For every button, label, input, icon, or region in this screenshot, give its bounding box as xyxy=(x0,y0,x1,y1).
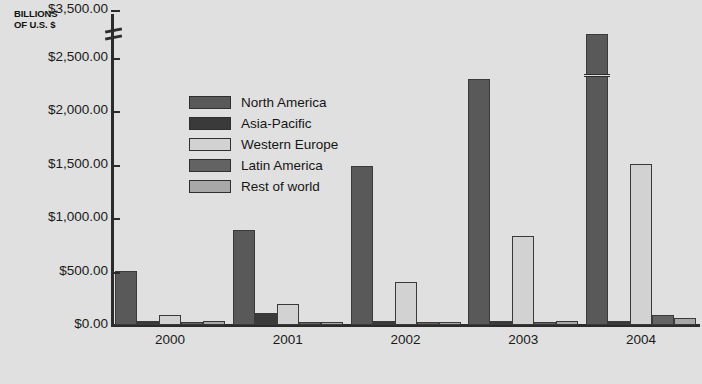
y-axis-labels: $0.00$500.00$1,000.00$1,500.00$2,000.00$… xyxy=(0,0,108,384)
y-axis-tick-label: $2,500.00 xyxy=(4,49,108,64)
bar-latin-america-2000 xyxy=(181,322,203,325)
bar-western-europe-2002 xyxy=(395,282,417,325)
bar-asia-pacific-2002 xyxy=(373,321,395,325)
bar-asia-pacific-2003 xyxy=(490,321,512,325)
y-axis-tick-label: $0.00 xyxy=(4,316,108,331)
y-axis-tick-label: $500.00 xyxy=(4,263,108,278)
bar-western-europe-2004 xyxy=(630,164,652,325)
bar-rest-of-world-2003 xyxy=(556,321,578,325)
bar-latin-america-2003 xyxy=(534,322,556,325)
bar-western-europe-2003 xyxy=(512,236,534,325)
y-axis-tick-label: $1,000.00 xyxy=(4,209,108,224)
bar-latin-america-2004 xyxy=(652,315,674,325)
bar-axis-break-mark xyxy=(584,74,610,77)
x-axis-tick-label: 2000 xyxy=(111,332,229,347)
bar-rest-of-world-2004 xyxy=(674,318,696,325)
bar-rest-of-world-2001 xyxy=(321,322,343,325)
y-axis-tick-mark xyxy=(111,325,120,327)
bar-asia-pacific-2000 xyxy=(137,321,159,325)
bar-north-america-2002 xyxy=(351,166,373,325)
y-axis-tick-label: $2,000.00 xyxy=(4,102,108,117)
bar-asia-pacific-2001 xyxy=(255,313,277,325)
plot-area xyxy=(111,14,700,325)
x-axis-tick-label: 2002 xyxy=(347,332,465,347)
y-axis-tick-label: $1,500.00 xyxy=(4,156,108,171)
y-axis-tick-mark xyxy=(111,165,120,167)
y-axis-tick-mark xyxy=(111,272,120,274)
bar-western-europe-2000 xyxy=(159,315,181,325)
bar-latin-america-2001 xyxy=(299,322,321,325)
bar-north-america-2000 xyxy=(115,271,137,325)
y-axis-tick-mark xyxy=(111,10,120,12)
bar-asia-pacific-2004 xyxy=(608,321,630,325)
bar-rest-of-world-2002 xyxy=(439,322,461,325)
bar-western-europe-2001 xyxy=(277,304,299,325)
bar-chart: BILLIONS OF U.S. $ $0.00$500.00$1,000.00… xyxy=(0,0,702,384)
y-axis-tick-mark xyxy=(111,111,120,113)
y-axis-tick-mark xyxy=(111,58,120,60)
bar-north-america-2004 xyxy=(586,34,608,325)
y-axis-tick-mark xyxy=(111,218,120,220)
x-axis-tick-label: 2003 xyxy=(464,332,582,347)
x-axis-tick-label: 2004 xyxy=(582,332,700,347)
bar-north-america-2003 xyxy=(468,79,490,325)
bar-rest-of-world-2000 xyxy=(203,321,225,325)
bar-latin-america-2002 xyxy=(417,322,439,325)
y-axis-tick-label: $3,500.00 xyxy=(4,1,108,16)
x-axis-tick-label: 2001 xyxy=(229,332,347,347)
bar-north-america-2001 xyxy=(233,230,255,325)
